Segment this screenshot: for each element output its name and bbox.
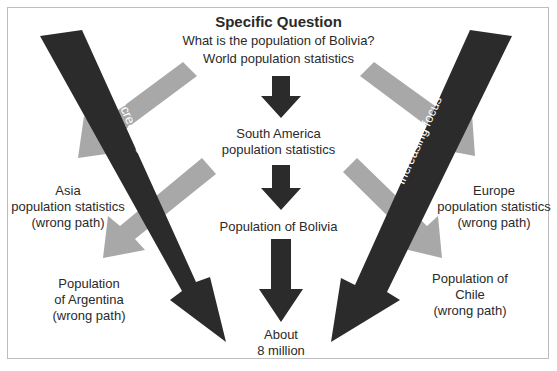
europe-line1: Europe xyxy=(432,183,556,199)
step-answer-line1: About xyxy=(0,327,557,343)
down-arrow-2-icon xyxy=(261,165,301,210)
down-arrow-1-icon xyxy=(261,76,301,118)
argentina-line2: of Argentina xyxy=(44,292,134,308)
step-answer-line2: 8 million xyxy=(0,343,557,359)
wrong-path-asia: Asia population statistics (wrong path) xyxy=(6,183,130,231)
argentina-line3: (wrong path) xyxy=(44,308,134,324)
wrong-path-argentina: Population of Argentina (wrong path) xyxy=(44,276,134,324)
europe-line3: (wrong path) xyxy=(432,215,556,231)
chile-line2: Chile xyxy=(420,287,520,303)
question-text: What is the population of Bolivia? xyxy=(0,33,557,49)
europe-line2: population statistics xyxy=(432,199,556,215)
diagram-title: Specific Question xyxy=(0,14,557,30)
wrong-path-europe: Europe population statistics (wrong path… xyxy=(432,183,556,231)
step-south-america: South America population statistics xyxy=(0,126,557,158)
step-world: World population statistics xyxy=(0,51,557,67)
step-answer: About 8 million xyxy=(0,327,557,359)
step-south-america-line1: South America xyxy=(0,126,557,142)
asia-line3: (wrong path) xyxy=(6,215,130,231)
chile-line1: Population of xyxy=(420,271,520,287)
step-south-america-line2: population statistics xyxy=(0,142,557,158)
argentina-line1: Population xyxy=(44,276,134,292)
center-arrows xyxy=(259,76,303,322)
asia-line2: population statistics xyxy=(6,199,130,215)
asia-line1: Asia xyxy=(6,183,130,199)
wrong-path-chile: Population of Chile (wrong path) xyxy=(420,271,520,319)
chile-line3: (wrong path) xyxy=(420,303,520,319)
down-arrow-3-icon xyxy=(259,239,303,322)
